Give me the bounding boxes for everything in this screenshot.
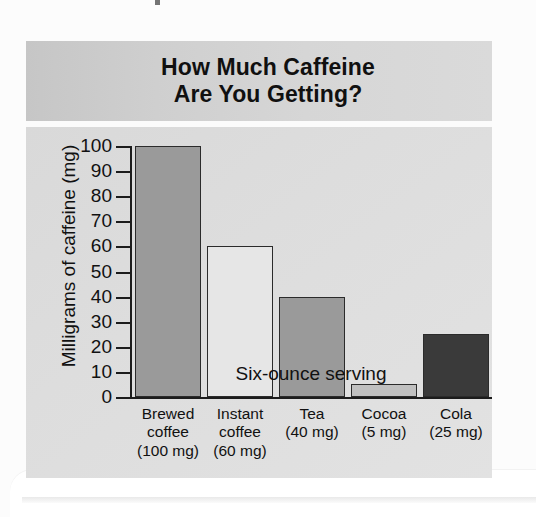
bar-cocoa bbox=[351, 384, 417, 397]
caffeine-bar-chart-figure: How Much Caffeine Are You Getting? Milli… bbox=[26, 41, 492, 478]
bars-layer bbox=[132, 146, 492, 397]
y-tick-mark bbox=[116, 297, 130, 299]
y-tick-mark bbox=[116, 171, 130, 173]
y-tick-mark bbox=[116, 221, 130, 223]
y-tick-label: 60 bbox=[91, 235, 112, 257]
scan-artifact-mark bbox=[155, 0, 160, 5]
y-tick-label: 40 bbox=[91, 286, 112, 308]
y-tick-label: 0 bbox=[101, 386, 112, 408]
x-category-label: Brewed coffee (100 mg) bbox=[132, 405, 204, 460]
y-tick-mark bbox=[116, 322, 130, 324]
y-tick-label: 50 bbox=[91, 261, 112, 283]
x-axis-title: Six-ounce serving bbox=[130, 363, 492, 385]
y-tick-mark bbox=[116, 397, 130, 399]
y-tick-mark bbox=[116, 246, 130, 248]
y-tick-mark bbox=[116, 272, 130, 274]
y-tick-label: 80 bbox=[91, 185, 112, 207]
y-tick-mark bbox=[116, 196, 130, 198]
y-tick-mark bbox=[116, 347, 130, 349]
x-category-label: Instant coffee (60 mg) bbox=[204, 405, 276, 460]
bar-brewed-coffee bbox=[135, 146, 201, 397]
y-axis-title: Milligrams of caffeine (mg) bbox=[58, 131, 80, 381]
y-tick-label: 10 bbox=[91, 361, 112, 383]
x-category-label: Tea (40 mg) bbox=[276, 405, 348, 442]
page-edge-shadow bbox=[22, 497, 536, 503]
axis-area: 1009080706050403020100 Brewed coffee (10… bbox=[130, 146, 492, 435]
page-title: How Much Caffeine Are You Getting? bbox=[143, 54, 375, 107]
y-tick-mark bbox=[116, 372, 130, 374]
plot-panel: Milligrams of caffeine (mg) 100908070605… bbox=[26, 127, 492, 478]
y-tick-mark bbox=[116, 146, 130, 148]
y-tick-label: 90 bbox=[91, 160, 112, 182]
y-tick-label: 100 bbox=[80, 135, 112, 157]
y-tick-label: 20 bbox=[91, 336, 112, 358]
y-tick-label: 30 bbox=[91, 311, 112, 333]
y-tick-label: 70 bbox=[91, 210, 112, 232]
chart-title-band: How Much Caffeine Are You Getting? bbox=[26, 41, 492, 121]
x-category-label: Cola (25 mg) bbox=[420, 405, 492, 442]
x-axis-line bbox=[122, 397, 492, 399]
x-category-label: Cocoa (5 mg) bbox=[348, 405, 420, 442]
